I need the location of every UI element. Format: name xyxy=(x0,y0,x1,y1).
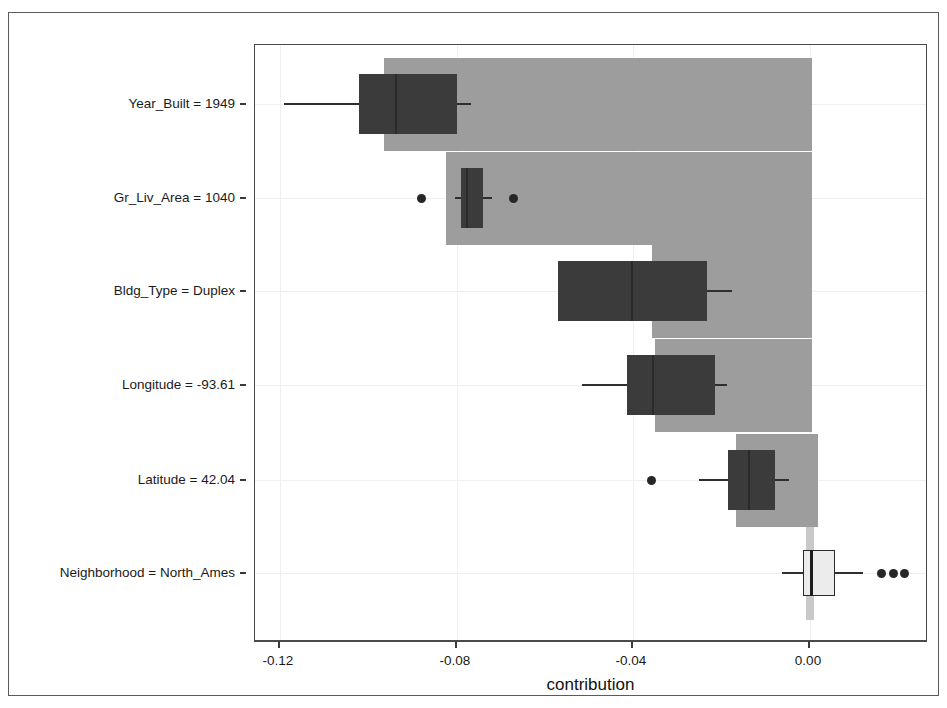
x-axis-line xyxy=(254,641,927,642)
y-axis-label-1: Gr_Liv_Area = 1040 xyxy=(9,191,235,205)
y-tick-mark-1 xyxy=(240,197,246,199)
y-tick-mark-3 xyxy=(240,384,246,386)
x-tick-label-2: -0.04 xyxy=(591,654,671,668)
x-tick-mark-2 xyxy=(631,641,633,648)
y-tick-mark-2 xyxy=(240,290,246,292)
y-tick-mark-0 xyxy=(240,103,246,105)
waterfall-bar-1 xyxy=(446,152,813,245)
figure-frame: Year_Built = 1949 Gr_Liv_Area = 1040 Bld… xyxy=(8,12,939,696)
boxplot-median-3 xyxy=(652,355,654,415)
grid-line-horizontal-4 xyxy=(255,480,926,481)
boxplot-outlier-5-2 xyxy=(900,569,909,578)
x-tick-mark-1 xyxy=(455,641,457,648)
boxplot-box-5 xyxy=(803,550,835,596)
boxplot-outlier-4-0 xyxy=(647,476,656,485)
x-tick-mark-3 xyxy=(808,641,810,648)
x-tick-label-0: -0.12 xyxy=(238,654,318,668)
boxplot-outlier-5-1 xyxy=(889,569,898,578)
plot-panel xyxy=(254,44,927,641)
chart-root: Year_Built = 1949 Gr_Liv_Area = 1040 Bld… xyxy=(0,0,947,708)
boxplot-outlier-1-0 xyxy=(417,194,426,203)
boxplot-median-2 xyxy=(631,261,633,321)
y-axis-label-0: Year_Built = 1949 xyxy=(9,97,235,111)
y-axis-label-5: Neighborhood = North_Ames xyxy=(9,566,235,580)
x-axis-title: contribution xyxy=(254,676,927,693)
boxplot-box-4 xyxy=(728,450,775,510)
boxplot-outlier-5-0 xyxy=(877,569,886,578)
boxplot-median-0 xyxy=(395,74,397,134)
boxplot-box-1 xyxy=(461,168,483,228)
y-tick-mark-4 xyxy=(240,479,246,481)
boxplot-median-5 xyxy=(810,550,813,596)
x-tick-label-3: 0.00 xyxy=(768,654,848,668)
boxplot-box-0 xyxy=(359,74,457,134)
x-tick-label-1: -0.08 xyxy=(415,654,495,668)
grid-line-vertical-0 xyxy=(280,45,281,640)
boxplot-outlier-1-1 xyxy=(509,194,518,203)
boxplot-median-1 xyxy=(466,168,468,228)
boxplot-median-4 xyxy=(748,450,750,510)
y-tick-mark-5 xyxy=(240,572,246,574)
boxplot-box-3 xyxy=(627,355,715,415)
y-axis-label-4: Latitude = 42.04 xyxy=(9,473,235,487)
y-axis-label-2: Bldg_Type = Duplex xyxy=(9,284,235,298)
y-axis-label-3: Longitude = -93.61 xyxy=(9,378,235,392)
x-tick-mark-0 xyxy=(278,641,280,648)
